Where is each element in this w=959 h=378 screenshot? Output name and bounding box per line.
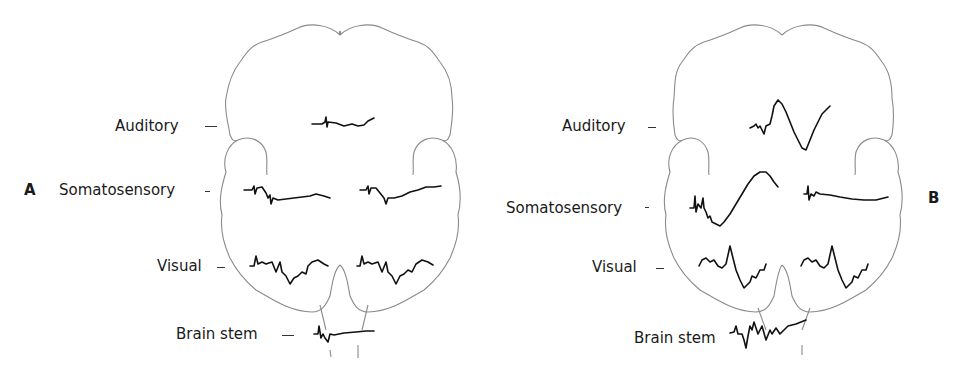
trace-somatosensory-right-a bbox=[360, 186, 441, 204]
trace-somatosensory-left-b bbox=[690, 172, 778, 226]
label-brain-stem-a: Brain stem bbox=[176, 327, 258, 342]
brain-outline-b bbox=[480, 0, 959, 378]
label-auditory-b: Auditory bbox=[562, 119, 626, 134]
trace-auditory-a bbox=[312, 117, 374, 127]
trace-visual-left-b bbox=[699, 246, 766, 288]
trace-somatosensory-left-a bbox=[244, 186, 330, 204]
trace-visual-right-b bbox=[801, 246, 868, 288]
panel-b: B Auditory Somatosensory Visual Brain st… bbox=[480, 0, 959, 378]
label-auditory-a: Auditory bbox=[115, 119, 179, 134]
label-somatosensory-b: Somatosensory bbox=[506, 201, 622, 216]
label-brain-stem-b: Brain stem bbox=[634, 331, 716, 346]
label-visual-a: Visual bbox=[157, 259, 202, 274]
trace-somatosensory-right-b bbox=[804, 186, 888, 200]
leader-visual-a bbox=[217, 267, 225, 268]
panel-a: A Auditory Somatosensory Visual Brain st… bbox=[0, 0, 480, 378]
leader-somatosensory-a bbox=[205, 191, 210, 192]
trace-brain-stem-b bbox=[730, 320, 806, 348]
panel-label-a: A bbox=[24, 181, 36, 199]
trace-visual-right-a bbox=[357, 256, 433, 284]
panel-label-b: B bbox=[928, 189, 939, 207]
trace-auditory-b bbox=[750, 100, 830, 150]
leader-auditory-a bbox=[205, 126, 217, 127]
label-somatosensory-a: Somatosensory bbox=[59, 183, 175, 198]
label-visual-b: Visual bbox=[592, 260, 637, 275]
trace-visual-left-a bbox=[250, 256, 328, 284]
leader-visual-b bbox=[656, 268, 664, 269]
leader-somatosensory-b bbox=[645, 207, 649, 208]
trace-brain-stem-a bbox=[314, 326, 374, 342]
leader-auditory-b bbox=[648, 127, 656, 128]
leader-brain-stem-a bbox=[282, 335, 294, 336]
